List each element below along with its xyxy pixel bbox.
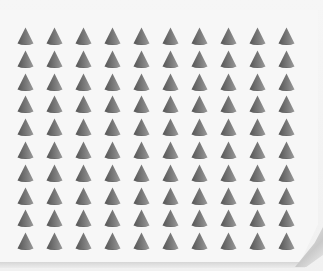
cone-icon <box>278 187 295 206</box>
cone-icon <box>191 187 208 206</box>
cone-icon <box>46 95 63 114</box>
cone-icon <box>278 164 295 183</box>
cone-icon <box>46 232 63 251</box>
cone-icon <box>220 27 237 46</box>
cone-icon <box>104 95 121 114</box>
cone-icon <box>220 118 237 137</box>
cone-icon <box>46 187 63 206</box>
cone-icon <box>17 50 34 69</box>
cone-icon <box>133 27 150 46</box>
cone-icon <box>249 27 266 46</box>
cone-icon <box>162 50 179 69</box>
cone-icon <box>278 118 295 137</box>
cone-icon <box>162 27 179 46</box>
cone-icon <box>133 73 150 92</box>
cone-icon <box>46 164 63 183</box>
cone-icon <box>75 50 92 69</box>
cone-icon <box>278 50 295 69</box>
cone-icon <box>249 164 266 183</box>
cone-icon <box>17 73 34 92</box>
cone-icon <box>249 187 266 206</box>
cone-icon <box>220 141 237 160</box>
cone-icon <box>278 141 295 160</box>
cone-icon <box>191 232 208 251</box>
cone-icon <box>104 232 121 251</box>
cone-icon <box>191 118 208 137</box>
cone-icon <box>17 187 34 206</box>
cone-icon <box>75 209 92 228</box>
cone-icon <box>162 187 179 206</box>
cone-icon <box>75 118 92 137</box>
cone-icon <box>75 141 92 160</box>
cone-icon <box>17 164 34 183</box>
cone-icon <box>46 73 63 92</box>
cone-icon <box>75 27 92 46</box>
cone-icon <box>75 232 92 251</box>
cone-icon <box>220 209 237 228</box>
cone-icon <box>133 95 150 114</box>
cone-icon <box>46 118 63 137</box>
cone-icon <box>75 187 92 206</box>
cone-icon <box>249 95 266 114</box>
cone-icon <box>104 118 121 137</box>
stimulus-scene <box>0 0 323 271</box>
cone-icon <box>191 141 208 160</box>
cone-icon <box>162 141 179 160</box>
cone-icon <box>133 50 150 69</box>
cone-icon <box>278 95 295 114</box>
cone-icon <box>278 232 295 251</box>
cone-icon <box>133 187 150 206</box>
cone-icon <box>191 27 208 46</box>
cone-icon <box>162 164 179 183</box>
cone-icon <box>104 50 121 69</box>
cone-icon <box>278 27 295 46</box>
cone-icon <box>249 118 266 137</box>
cone-icon <box>133 118 150 137</box>
cone-icon <box>220 50 237 69</box>
cone-icon <box>191 50 208 69</box>
cone-icon <box>191 209 208 228</box>
cone-icon <box>249 50 266 69</box>
cone-icon <box>17 209 34 228</box>
cone-icon <box>104 27 121 46</box>
cone-icon <box>75 164 92 183</box>
cone-icon <box>249 141 266 160</box>
cone-icon <box>249 232 266 251</box>
cone-icon <box>104 187 121 206</box>
cone-icon <box>278 209 295 228</box>
cone-icon <box>249 73 266 92</box>
cone-icon <box>133 209 150 228</box>
cone-icon <box>46 27 63 46</box>
cone-icon <box>162 95 179 114</box>
cone-icon <box>46 50 63 69</box>
cone-icon <box>133 232 150 251</box>
cone-icon <box>17 141 34 160</box>
cone-icon <box>162 118 179 137</box>
cone-icon <box>220 73 237 92</box>
cone-icon <box>278 73 295 92</box>
cone-icon <box>17 118 34 137</box>
cone-icon <box>162 232 179 251</box>
cone-icon <box>162 209 179 228</box>
cone-icon <box>46 209 63 228</box>
cone-icon <box>104 164 121 183</box>
cone-icon <box>104 209 121 228</box>
cone-icon <box>220 164 237 183</box>
cone-icon <box>191 164 208 183</box>
cone-icon <box>220 95 237 114</box>
cone-icon <box>162 73 179 92</box>
cone-icon <box>133 141 150 160</box>
cone-icon <box>75 73 92 92</box>
cone-icon <box>220 187 237 206</box>
cone-icon <box>17 95 34 114</box>
cone-icon <box>104 141 121 160</box>
cone-icon <box>191 95 208 114</box>
cone-icon <box>104 73 121 92</box>
cone-icon <box>75 95 92 114</box>
cone-icon <box>220 232 237 251</box>
cone-icon <box>191 73 208 92</box>
cone-icon <box>17 27 34 46</box>
cone-icon <box>46 141 63 160</box>
cone-grid <box>0 0 323 271</box>
cone-icon <box>133 164 150 183</box>
